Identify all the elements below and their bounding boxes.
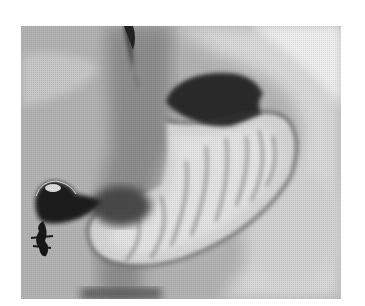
- radiograph-svg: [21, 26, 341, 299]
- radiograph-image: [21, 26, 341, 299]
- halftone-texture: [21, 26, 341, 299]
